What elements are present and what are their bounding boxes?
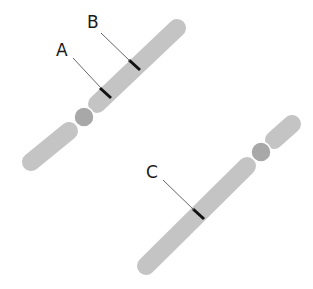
chromosome-2-centromere	[251, 142, 271, 162]
label-a: A	[56, 40, 68, 60]
label-c: C	[146, 162, 158, 182]
chromosome-2: C	[146, 124, 292, 266]
chromosome-1-centromere	[74, 107, 94, 127]
chromosome-1: A B	[31, 12, 177, 162]
chromosome-diagram: A B C	[0, 0, 313, 289]
leader-c	[163, 180, 194, 210]
chromosome-1-lower-arm	[31, 131, 69, 162]
chromosome-2-upper-arm	[274, 124, 292, 140]
leader-a	[73, 58, 101, 88]
chromosome-2-lower-arm	[146, 166, 247, 266]
leader-b	[101, 33, 130, 61]
label-b: B	[87, 12, 99, 32]
